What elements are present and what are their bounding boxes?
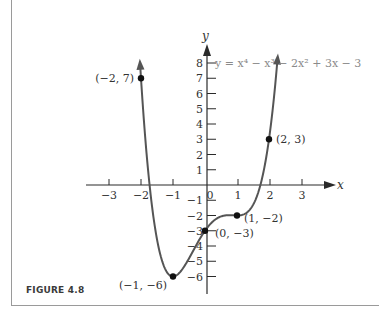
equation-label: y = x⁴ − x³ − 2x² + 3x − 3: [214, 57, 361, 70]
data-point-marker: [202, 228, 208, 234]
data-point-marker: [266, 136, 272, 142]
x-tick-label: −2: [133, 189, 149, 202]
y-tick-label: −6: [187, 271, 203, 284]
y-tick-label: 2: [196, 149, 203, 162]
y-tick-label: −2: [187, 210, 203, 223]
y-tick-label: 4: [196, 118, 203, 131]
y-tick-label: 8: [196, 57, 203, 70]
y-tick-label: 6: [196, 88, 203, 101]
x-tick-label: 3: [299, 189, 306, 202]
data-point-marker: [138, 75, 144, 81]
data-point-label: (0, −3): [215, 227, 254, 240]
data-point-marker: [170, 273, 176, 279]
y-tick-label: 1: [196, 164, 203, 177]
data-point-marker: [234, 212, 240, 218]
x-tick-label: −1: [165, 189, 181, 202]
y-tick-label: 3: [196, 133, 203, 146]
function-plot: −3−2−1012387654321−1−2−3−4−5−6 (−2, 7)(2…: [0, 0, 379, 313]
x-tick-label: −3: [101, 189, 117, 202]
data-point-label: (−2, 7): [95, 72, 134, 85]
data-point-label: (−1, −6): [119, 279, 167, 292]
x-tick-label: 2: [267, 189, 274, 202]
x-tick-label: 1: [235, 189, 242, 202]
y-axis-arrow-icon: [203, 44, 211, 56]
y-axis-label: y: [201, 29, 209, 43]
data-point-label: (2, 3): [276, 133, 306, 146]
x-axis-label: x: [337, 178, 344, 192]
y-tick-label: 7: [196, 72, 203, 85]
function-curve: [136, 54, 281, 277]
curve-arrow-left-icon: [136, 59, 144, 70]
y-tick-label: −1: [187, 194, 203, 207]
x-axis-arrow-icon: [324, 181, 336, 189]
data-point-label: (1, −2): [244, 212, 283, 225]
y-tick-label: 5: [196, 103, 203, 116]
